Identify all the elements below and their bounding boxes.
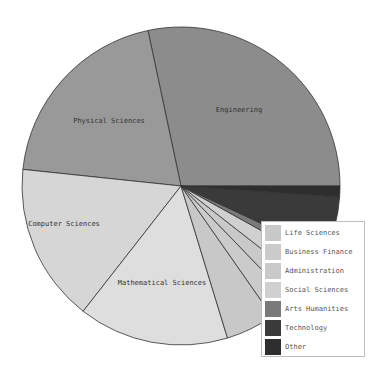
legend-label: Life Sciences bbox=[285, 229, 340, 237]
slice-label-engineering: Engineering bbox=[216, 106, 262, 114]
legend-swatch bbox=[265, 282, 281, 298]
legend-swatch bbox=[265, 301, 281, 317]
legend-item-technology: Technology bbox=[265, 320, 327, 336]
slice-label-mathematical-sciences: Mathematical Sciences bbox=[118, 279, 207, 287]
legend-swatch bbox=[265, 244, 281, 260]
legend-swatch bbox=[265, 225, 281, 241]
legend-item-arts-humanities: Arts Humanities bbox=[265, 301, 348, 317]
slice-label-computer-sciences: Computer Sciences bbox=[28, 220, 100, 228]
legend-label: Other bbox=[285, 343, 306, 351]
legend-item-administration: Administration bbox=[265, 263, 344, 279]
legend-item-social-sciences: Social Sciences bbox=[265, 282, 348, 298]
legend-swatch bbox=[265, 339, 281, 355]
legend-label: Administration bbox=[285, 267, 344, 275]
slice-label-physical-sciences: Physical Sciences bbox=[73, 117, 145, 125]
legend-label: Arts Humanities bbox=[285, 305, 348, 313]
legend-item-other: Other bbox=[265, 339, 306, 355]
legend-label: Business Finance bbox=[285, 248, 352, 256]
legend-label: Technology bbox=[285, 324, 327, 332]
legend-swatch bbox=[265, 320, 281, 336]
legend-item-life-sciences: Life Sciences bbox=[265, 225, 340, 241]
legend-swatch bbox=[265, 263, 281, 279]
chart-legend: Life Sciences Business Finance Administr… bbox=[261, 221, 365, 357]
legend-item-business-finance: Business Finance bbox=[265, 244, 352, 260]
legend-label: Social Sciences bbox=[285, 286, 348, 294]
